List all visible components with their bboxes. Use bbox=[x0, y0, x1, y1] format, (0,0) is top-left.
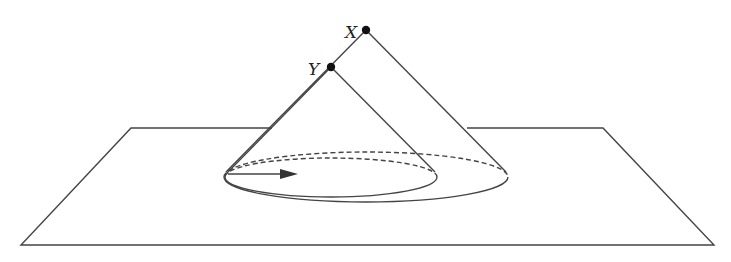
light-cone-diagram: X Y bbox=[0, 0, 731, 262]
cone-y-base-front bbox=[225, 177, 437, 197]
arrow-head-icon bbox=[280, 169, 298, 179]
cone-x-right-edge bbox=[366, 30, 506, 172]
cone-y bbox=[225, 67, 437, 197]
cone-x-base-front bbox=[224, 177, 508, 202]
cone-y-right-edge bbox=[331, 67, 435, 172]
plane bbox=[21, 128, 714, 245]
point-x bbox=[362, 26, 370, 34]
cone-x bbox=[224, 30, 508, 202]
cone-x-left-edge bbox=[226, 30, 366, 172]
direction-arrow bbox=[228, 169, 298, 179]
label-x: X bbox=[343, 22, 358, 42]
point-y bbox=[327, 63, 335, 71]
plane-outline bbox=[21, 128, 714, 245]
label-y: Y bbox=[308, 59, 321, 79]
cone-x-base-back-dashed bbox=[224, 152, 508, 177]
